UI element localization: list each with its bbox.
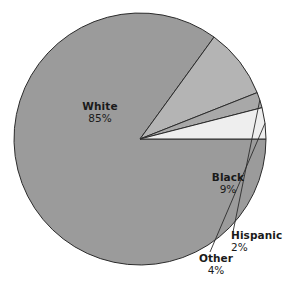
pie-label-black-name: Black [196,171,260,183]
pie-label-other: Other 4% [188,252,244,277]
pie-label-hispanic-name: Hispanic [231,229,297,241]
pie-label-white-name: White [64,100,136,112]
pie-label-hispanic: Hispanic 2% [231,229,297,254]
pie-label-black: Black 9% [196,171,260,196]
pie-slices [14,13,266,265]
pie-label-other-name: Other [188,252,244,264]
pie-label-white-value: 85% [64,112,136,124]
pie-label-black-value: 9% [196,183,260,195]
pie-label-white: White 85% [64,100,136,125]
pie-chart-figure: White 85% Black 9% Hispanic 2% Other 4% [0,0,299,299]
pie-chart-svg [0,0,299,299]
pie-label-other-value: 4% [188,264,244,276]
